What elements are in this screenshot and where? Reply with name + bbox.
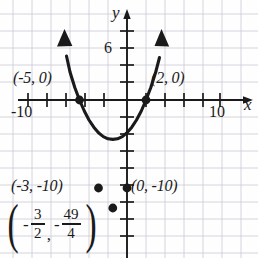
y-axis-name: y <box>112 4 120 21</box>
vertex-minus-y: - <box>53 216 61 233</box>
label-x-intercept-left: (-5, 0) <box>13 70 52 86</box>
vertex-y-denominator: 4 <box>65 226 77 242</box>
label-point-left-low: (-3, -10) <box>11 178 63 194</box>
vertex-paren-close: ) <box>85 203 96 245</box>
vertex-x-denominator: 2 <box>32 226 44 242</box>
label-y-intercept: (0, -10) <box>131 178 177 194</box>
point-2-0 <box>142 96 151 105</box>
point-minus3-minus10 <box>94 184 103 193</box>
point-minus5-0 <box>75 96 84 105</box>
graph-figure: (-5, 0) (2, 0) (-3, -10) (0, -10) ( - 3 … <box>0 0 258 258</box>
vertex-fraction-y: 49 4 <box>61 207 82 242</box>
vertex-comma: , <box>46 226 53 245</box>
x-tick-label-10: 10 <box>209 104 225 120</box>
y-tick-label-6: 6 <box>104 40 112 56</box>
vertex-fraction-x: 3 2 <box>30 207 46 242</box>
label-x-intercept-right: (2, 0) <box>151 70 184 86</box>
vertex-minus-x: - <box>22 216 30 233</box>
point-vertex <box>108 204 117 213</box>
x-tick-label-minus10: -10 <box>11 104 32 120</box>
label-vertex: ( - 3 2 , - 49 4 ) <box>4 203 100 245</box>
vertex-x-numerator: 3 <box>32 207 44 223</box>
x-axis-name: x <box>244 96 252 113</box>
vertex-y-numerator: 49 <box>62 207 81 223</box>
vertex-paren-open: ( <box>7 203 18 245</box>
